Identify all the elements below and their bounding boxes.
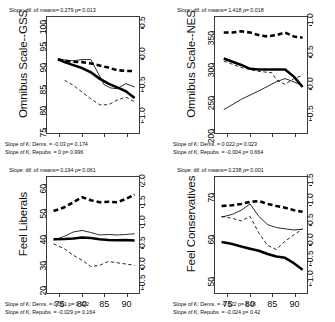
y-tick-mark bbox=[211, 63, 214, 64]
panel-1-y-ticks-right: 1.00.50.0-0.5 bbox=[309, 16, 331, 134]
x-tick-label: 75 bbox=[54, 299, 64, 309]
y-tick-mark bbox=[211, 96, 214, 97]
y-tick-mark bbox=[211, 193, 214, 194]
y2-tick-mark bbox=[141, 227, 144, 228]
panel-2-y-ticks-left: 2030405060 bbox=[24, 176, 44, 294]
panel-0-y-ticks-left: 7580859095100 bbox=[24, 16, 44, 134]
series-thin-dashed bbox=[54, 244, 135, 267]
x-tick-label: 90 bbox=[122, 299, 132, 309]
x-tick-mark bbox=[104, 294, 105, 297]
y-tick-mark bbox=[43, 235, 46, 236]
panel-omnibus-scale-nes: Omnibus Scale--NES 200250300350 1.00.50.… bbox=[168, 0, 335, 161]
y2-tick-mark bbox=[309, 120, 312, 121]
x-tick-mark bbox=[59, 294, 60, 297]
y-tick-mark bbox=[43, 261, 46, 262]
y2-tick-mark bbox=[141, 186, 144, 187]
x-tick-mark bbox=[127, 294, 128, 297]
y-tick-mark bbox=[43, 128, 46, 129]
x-tick-label: 80 bbox=[245, 299, 255, 309]
panel-3-x-axis: 75808590 bbox=[214, 294, 308, 316]
y-tick-mark bbox=[43, 85, 46, 86]
y-tick-mark bbox=[43, 63, 46, 64]
series-thick-solid bbox=[54, 238, 135, 241]
y-tick-mark bbox=[43, 42, 46, 43]
x-tick-mark bbox=[227, 294, 228, 297]
panel-0-series-svg bbox=[47, 17, 139, 133]
panel-0-y-ticks-right: 0.50.0-0.5-1.0 bbox=[141, 16, 163, 134]
panel-1-annotation-top: Slope: dif. of means= 1.418 p= 0.018 bbox=[177, 7, 264, 15]
series-thin-dashed bbox=[65, 80, 135, 104]
series-thick-solid bbox=[222, 242, 303, 270]
y-tick-mark bbox=[211, 235, 214, 236]
panel-1-x-axis bbox=[214, 134, 308, 156]
panel-omnibus-scale-gss: Omnibus Scale--GSS 7580859095100 0.50.0-… bbox=[0, 0, 167, 161]
x-tick-label: 75 bbox=[222, 299, 232, 309]
panel-0-x-axis bbox=[46, 134, 140, 156]
x-tick-mark bbox=[250, 294, 251, 297]
panel-2-series-svg bbox=[47, 177, 139, 293]
x-tick-label: 85 bbox=[99, 299, 109, 309]
y2-tick-mark bbox=[141, 207, 144, 208]
x-tick-mark bbox=[250, 134, 251, 137]
y2-tick-mark bbox=[141, 289, 144, 290]
y2-tick-mark bbox=[309, 205, 312, 206]
x-tick-mark bbox=[127, 134, 128, 137]
x-tick-mark bbox=[272, 294, 273, 297]
y2-tick-mark bbox=[141, 248, 144, 249]
x-tick-mark bbox=[59, 134, 60, 137]
y2-tick-mark bbox=[141, 122, 144, 123]
x-tick-mark bbox=[104, 134, 105, 137]
panel-feel-liberals: Feel Liberals 2030405060 2.01.51.00.50.0… bbox=[0, 160, 167, 321]
y-tick-mark bbox=[43, 20, 46, 21]
panel-1-plot-area bbox=[214, 16, 308, 134]
y2-tick-mark bbox=[141, 91, 144, 92]
panel-2-annotation-top: Slope: dif. of means= 0.194 p= 0.061 bbox=[9, 167, 96, 175]
y2-tick-mark bbox=[309, 185, 312, 186]
x-tick-label: 90 bbox=[290, 299, 300, 309]
panel-1-series-svg bbox=[215, 17, 307, 133]
series-thin-solid bbox=[224, 79, 303, 110]
y-tick-mark bbox=[43, 184, 46, 185]
panel-2-x-axis: 75808590 bbox=[46, 294, 140, 316]
y-tick-mark bbox=[43, 209, 46, 210]
panel-0-annotation-top: Slope: dif. of means= 0.279 p= 0.013 bbox=[9, 7, 96, 15]
y2-tick-mark bbox=[309, 265, 312, 266]
y2-tick-mark bbox=[309, 89, 312, 90]
panel-3-series-svg bbox=[215, 177, 307, 293]
panel-feel-conservatives: Feel Conservatives 506070 1.51.00.50.0-0… bbox=[168, 160, 335, 321]
x-tick-mark bbox=[295, 294, 296, 297]
series-thick-dashed bbox=[54, 195, 135, 211]
y-tick-mark bbox=[43, 106, 46, 107]
panel-0-plot-area bbox=[46, 16, 140, 134]
panel-2-y-ticks-right: 2.01.51.00.50.0-0.5 bbox=[141, 176, 163, 294]
x-tick-label: 85 bbox=[267, 299, 277, 309]
series-thick-dashed bbox=[222, 201, 303, 212]
x-tick-mark bbox=[82, 134, 83, 137]
panel-1-y-ticks-left: 200250300350 bbox=[192, 16, 212, 134]
series-thick-solid bbox=[58, 59, 135, 98]
y2-tick-mark bbox=[309, 25, 312, 26]
series-thin-solid bbox=[222, 204, 303, 230]
x-tick-label: 80 bbox=[77, 299, 87, 309]
y-tick-mark bbox=[211, 31, 214, 32]
panel-3-plot-area bbox=[214, 176, 308, 294]
figure-panel-grid: Omnibus Scale--GSS 7580859095100 0.50.0-… bbox=[0, 0, 335, 322]
y2-tick-mark bbox=[141, 59, 144, 60]
panel-3-y-ticks-left: 506070 bbox=[192, 176, 212, 294]
y2-tick-mark bbox=[309, 57, 312, 58]
y-tick-mark bbox=[211, 129, 214, 130]
series-thick-solid bbox=[224, 58, 303, 87]
y-tick-mark bbox=[211, 277, 214, 278]
x-tick-mark bbox=[82, 294, 83, 297]
series-thick-dashed bbox=[224, 31, 303, 37]
y2-tick-mark bbox=[309, 225, 312, 226]
x-tick-mark bbox=[295, 134, 296, 137]
panel-3-annotation-top: Slope: dif. of means= 0.238 p= 0.001 bbox=[177, 167, 264, 175]
panel-3-y-ticks-right: 1.51.00.50.0-0.5-1.0 bbox=[309, 176, 331, 294]
y-tick-mark bbox=[43, 286, 46, 287]
x-tick-mark bbox=[272, 134, 273, 137]
y2-tick-mark bbox=[141, 28, 144, 29]
y2-tick-mark bbox=[309, 245, 312, 246]
y2-tick-mark bbox=[141, 269, 144, 270]
panel-2-plot-area bbox=[46, 176, 140, 294]
